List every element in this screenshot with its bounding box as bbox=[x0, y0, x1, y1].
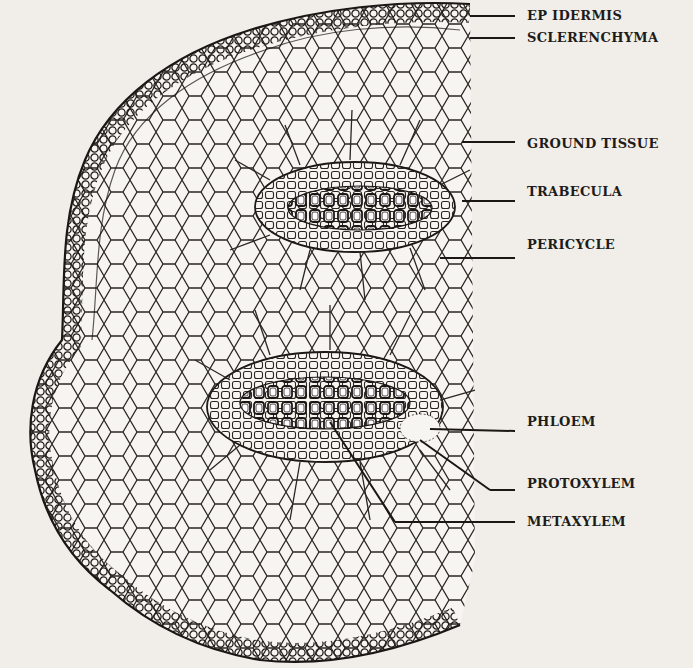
label-phloem: PHLOEM bbox=[527, 414, 596, 429]
label-sclerenchyma: SCLERENCHYMA bbox=[527, 30, 658, 45]
label-trabecula: TRABECULA bbox=[527, 184, 622, 199]
label-metaxylem: METAXYLEM bbox=[527, 514, 626, 529]
cross-section-drawing bbox=[0, 0, 693, 668]
label-ground-tissue: GROUND TISSUE bbox=[527, 136, 659, 151]
label-epidermis: EP IDERMIS bbox=[527, 8, 622, 23]
stem-cross-section-diagram: EP IDERMIS SCLERENCHYMA GROUND TISSUE TR… bbox=[0, 0, 693, 668]
label-pericycle: PERICYCLE bbox=[527, 237, 615, 252]
label-protoxylem: PROTOXYLEM bbox=[527, 476, 635, 491]
